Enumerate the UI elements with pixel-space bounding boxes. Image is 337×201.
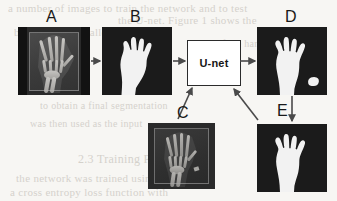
xray-hand-a	[18, 27, 90, 95]
mask-hand-b	[102, 27, 172, 95]
panel-label-d: D	[285, 9, 297, 25]
background-text-line: the network was trained using	[16, 172, 157, 184]
background-text-line: was then used as the input	[30, 118, 143, 129]
panel-e-mask	[257, 124, 327, 192]
unet-label: U-net	[199, 57, 228, 69]
panel-c-xray	[148, 123, 215, 189]
unet-box[interactable]: U-net	[187, 40, 241, 86]
panel-b-mask	[102, 27, 172, 95]
background-text-line: to obtain a final segmentation	[40, 100, 168, 111]
background-text-line: a number of images to train the network …	[8, 2, 248, 14]
panel-a-xray	[18, 27, 90, 95]
panel-label-e: E	[277, 103, 288, 119]
mask-hand-e	[257, 124, 327, 192]
arrow-e-to-unet	[234, 89, 258, 120]
xray-hand-c	[148, 123, 215, 189]
background-text-line: a cross entropy loss function with	[10, 186, 168, 198]
panel-label-b: B	[130, 9, 141, 25]
pipeline-figure: a number of images to train the network …	[0, 0, 337, 201]
panel-d-mask-with-artifact	[257, 27, 327, 95]
panel-label-c: C	[177, 105, 189, 121]
panel-label-a: A	[46, 9, 57, 25]
